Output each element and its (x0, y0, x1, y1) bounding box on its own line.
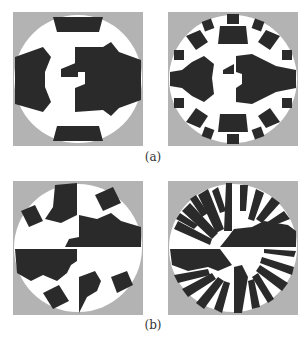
panel-b-left (13, 181, 143, 315)
caption-b: (b) (133, 318, 173, 332)
panel-a-left (13, 12, 143, 146)
pattern-image (168, 181, 298, 315)
panel-b-right (168, 181, 298, 315)
pattern-image (13, 12, 143, 146)
panel-a-right (168, 12, 298, 146)
pattern-image (168, 12, 298, 146)
caption-a: (a) (133, 150, 173, 164)
pattern-image (13, 181, 143, 315)
